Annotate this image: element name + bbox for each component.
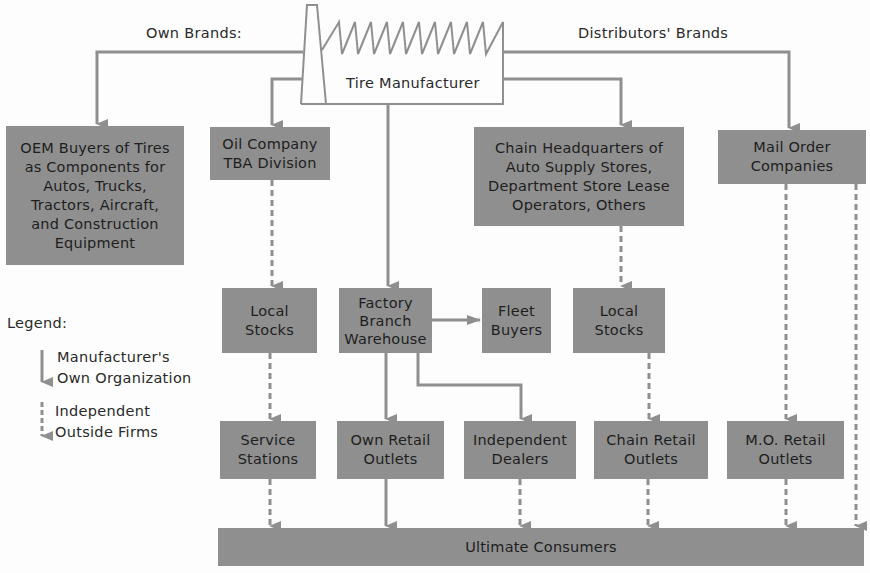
tire-manufacturer-label: Tire Manufacturer: [346, 75, 480, 91]
node-mail-order: Mail Order Companies: [718, 130, 866, 184]
node-oem: OEM Buyers of Tires as Components for Au…: [6, 126, 184, 265]
distributors-brands-label: Distributors' Brands: [578, 25, 728, 41]
node-mo-retail: M.O. Retail Outlets: [727, 421, 844, 479]
legend-solid-label: Manufacturer's Own Organization: [57, 347, 192, 389]
node-independent-dealers: Independent Dealers: [464, 421, 576, 479]
edge-manufacturer-oil: [272, 79, 302, 125]
legend-title: Legend:: [7, 315, 67, 331]
node-local-stocks-chain: Local Stocks: [573, 288, 665, 353]
node-chain-retail: Chain Retail Outlets: [594, 421, 708, 479]
node-own-retail: Own Retail Outlets: [337, 421, 444, 479]
node-ultimate-consumers: Ultimate Consumers: [218, 528, 864, 566]
node-chain-hq: Chain Headquarters of Auto Supply Stores…: [474, 127, 684, 226]
edge-manufacturer-chain: [503, 79, 621, 125]
node-fleet-buyers: Fleet Buyers: [482, 288, 551, 353]
node-factory-branch: Factory Branch Warehouse: [339, 288, 432, 353]
node-oil-company: Oil Company TBA Division: [210, 127, 330, 180]
node-local-stocks-oil: Local Stocks: [222, 288, 317, 353]
edge-manufacturer-mailorder: [503, 52, 789, 128]
edge-branch-dealers: [418, 353, 521, 419]
legend-dashed-label: Independent Outside Firms: [55, 401, 158, 443]
node-service-stations: Service Stations: [220, 421, 316, 479]
own-brands-label: Own Brands:: [146, 25, 242, 41]
